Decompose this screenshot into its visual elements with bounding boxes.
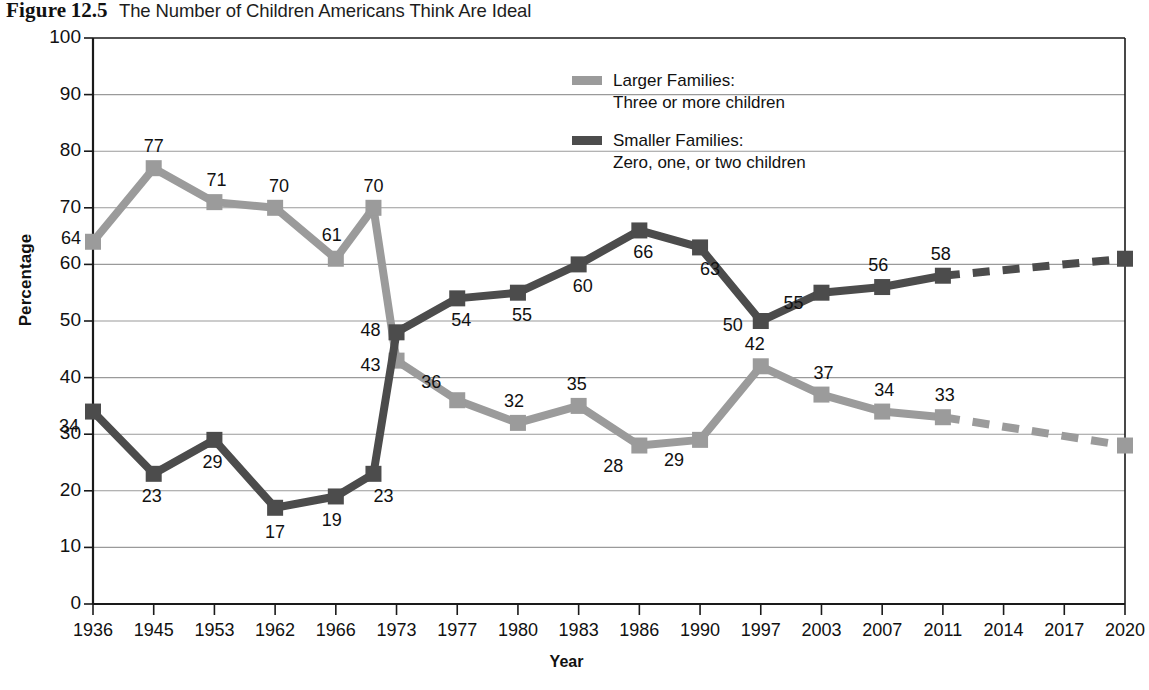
legend-swatch-larger-families: [572, 76, 602, 85]
data-point-marker: [692, 432, 708, 448]
data-point-label: 35: [567, 373, 587, 394]
legend-item-smaller-families: Smaller Families: Zero, one, or two chil…: [572, 130, 902, 174]
data-point-marker: [389, 324, 405, 340]
series-segment: [943, 259, 1125, 276]
data-point-label: 61: [322, 224, 342, 245]
data-point-label: 55: [512, 304, 532, 325]
legend-label-larger-line1: Larger Families:: [613, 71, 735, 90]
data-point-label: 58: [931, 243, 951, 264]
data-point-label: 55: [783, 292, 803, 313]
y-axis-tick-label: 20: [31, 479, 81, 501]
series-segment: [579, 230, 640, 264]
data-point-label: 43: [361, 354, 381, 375]
y-axis-tick-label: 0: [31, 592, 81, 614]
legend-label-smaller-families: Smaller Families: Zero, one, or two chil…: [613, 130, 806, 174]
data-point-label: 36: [421, 372, 441, 393]
data-point-marker: [85, 234, 101, 250]
data-point-marker: [571, 256, 587, 272]
data-point-label: 42: [745, 334, 765, 355]
series-segment: [821, 395, 882, 412]
data-point-marker: [631, 438, 647, 454]
data-point-label: 23: [373, 485, 393, 506]
data-point-marker: [365, 200, 381, 216]
legend-label-larger-line2: Three or more children: [613, 92, 785, 114]
series-segment: [518, 406, 579, 423]
y-axis-tick-label: 10: [31, 535, 81, 557]
legend-swatch-smaller-families: [572, 136, 602, 145]
x-axis-tick-label: 1986: [604, 620, 674, 641]
data-point-marker: [267, 500, 283, 516]
data-point-label: 63: [700, 259, 720, 280]
x-axis-tick-label: 1977: [422, 620, 492, 641]
x-axis-tick-label: 2011: [908, 620, 978, 641]
data-point-label: 50: [723, 315, 743, 336]
series-segment: [154, 168, 215, 202]
x-axis-tick-label: 1945: [119, 620, 189, 641]
series-segment: [457, 293, 518, 299]
data-point-label: 66: [633, 242, 653, 263]
data-point-label: 23: [142, 485, 162, 506]
chart-legend: Larger Families: Three or more children …: [572, 70, 902, 190]
x-axis-tick-label: 1962: [240, 620, 310, 641]
data-point-marker: [813, 387, 829, 403]
data-point-label: 71: [206, 170, 226, 191]
y-axis-tick-label: 80: [31, 139, 81, 161]
x-axis-tick-label: 2014: [969, 620, 1039, 641]
x-axis-tick-label: 1966: [301, 620, 371, 641]
data-point-marker: [449, 392, 465, 408]
data-point-marker: [935, 268, 951, 284]
data-point-marker: [146, 466, 162, 482]
data-point-marker: [510, 285, 526, 301]
data-point-label: 17: [265, 521, 285, 542]
data-point-marker: [206, 432, 222, 448]
x-axis-tick-label: 1936: [58, 620, 128, 641]
x-axis-tick-label: 2003: [786, 620, 856, 641]
data-point-marker: [510, 415, 526, 431]
data-point-label: 60: [573, 276, 593, 297]
data-point-marker: [85, 404, 101, 420]
x-axis-tick-label: 1997: [726, 620, 796, 641]
x-axis-tick-label: 1983: [544, 620, 614, 641]
data-point-marker: [692, 239, 708, 255]
data-point-marker: [753, 358, 769, 374]
x-axis-tick-label: 2017: [1029, 620, 1099, 641]
data-point-label: 32: [504, 390, 524, 411]
series-segment: [882, 412, 943, 418]
y-axis-tick-label: 90: [31, 83, 81, 105]
x-axis-tick-label: 1953: [179, 620, 249, 641]
x-axis-tick-label: 1990: [665, 620, 735, 641]
data-point-label: 48: [361, 320, 381, 341]
series-segment: [214, 202, 275, 208]
data-point-label: 34: [59, 415, 79, 436]
series-segment: [275, 496, 336, 507]
data-point-marker: [365, 466, 381, 482]
series-segment: [639, 440, 700, 446]
y-axis-tick-label: 70: [31, 196, 81, 218]
data-point-marker: [874, 404, 890, 420]
data-point-marker: [328, 488, 344, 504]
legend-item-larger-families: Larger Families: Three or more children: [572, 70, 902, 114]
series-segment: [93, 168, 154, 242]
data-point-label: 28: [603, 455, 623, 476]
data-point-label: 34: [874, 379, 894, 400]
legend-label-larger-families: Larger Families: Three or more children: [613, 70, 785, 114]
data-point-marker: [267, 200, 283, 216]
data-point-marker: [935, 409, 951, 425]
series-segment: [943, 417, 1125, 445]
data-point-label: 70: [363, 175, 383, 196]
legend-label-smaller-line1: Smaller Families:: [613, 131, 743, 150]
data-point-marker: [631, 222, 647, 238]
series-segment: [214, 440, 275, 508]
series-segment: [882, 276, 943, 287]
x-axis-tick-label: 1980: [483, 620, 553, 641]
legend-label-smaller-line2: Zero, one, or two children: [613, 152, 806, 174]
series-segment: [579, 406, 640, 446]
data-point-label: 19: [322, 510, 342, 531]
data-point-label: 37: [813, 362, 833, 383]
series-larger-families: [85, 160, 1133, 453]
data-point-marker: [753, 313, 769, 329]
data-point-label: 29: [664, 449, 684, 470]
series-segment: [761, 366, 822, 394]
